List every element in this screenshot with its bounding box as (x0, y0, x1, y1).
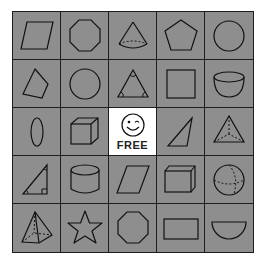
square-icon (159, 62, 203, 106)
cell-circle-2[interactable] (61, 60, 109, 108)
cell-square[interactable] (157, 60, 205, 108)
cell-triangular-pyramid[interactable] (205, 108, 253, 156)
winking-smiley-icon (120, 112, 146, 138)
cell-parallelogram-2[interactable] (109, 156, 157, 204)
cell-square-pyramid[interactable] (13, 204, 61, 252)
semicircle-icon (207, 206, 251, 250)
cell-hemisphere-bowl[interactable] (205, 60, 253, 108)
cell-cylinder[interactable] (61, 156, 109, 204)
cell-right-triangle-thin[interactable] (157, 108, 205, 156)
cell-quadrilateral[interactable] (13, 60, 61, 108)
free-space[interactable]: FREE (109, 108, 157, 156)
cell-star[interactable] (61, 204, 109, 252)
cell-semicircle[interactable] (205, 204, 253, 252)
cell-cone[interactable] (109, 12, 157, 60)
triangle-icon (111, 62, 155, 106)
free-label: FREE (117, 139, 148, 151)
square-pyramid-icon (15, 206, 59, 250)
cell-circle[interactable] (205, 12, 253, 60)
cell-rectangle[interactable] (157, 204, 205, 252)
cell-rectangular-prism[interactable] (157, 156, 205, 204)
cell-triangle-with-angles[interactable] (109, 60, 157, 108)
triangle-icon (159, 110, 203, 154)
cell-cube[interactable] (61, 108, 109, 156)
octagon-icon (63, 14, 107, 58)
cell-oval[interactable] (13, 108, 61, 156)
bingo-board: FREE (12, 11, 254, 253)
triangular-pyramid-icon (207, 110, 251, 154)
pentagon-icon (159, 14, 203, 58)
oval-icon (15, 110, 59, 154)
cone-icon (111, 14, 155, 58)
rectangular-prism-icon (159, 158, 203, 202)
sphere-icon (207, 158, 251, 202)
cell-octagon[interactable] (61, 12, 109, 60)
hemisphere-icon (207, 62, 251, 106)
cell-sphere[interactable] (205, 156, 253, 204)
cell-parallelogram[interactable] (13, 12, 61, 60)
right-triangle-icon (15, 158, 59, 202)
circle-icon (63, 62, 107, 106)
cylinder-icon (63, 158, 107, 202)
parallelogram-icon (15, 14, 59, 58)
cell-right-triangle[interactable] (13, 156, 61, 204)
star-icon (63, 206, 107, 250)
octagon-icon (111, 206, 155, 250)
cell-pentagon[interactable] (157, 12, 205, 60)
circle-icon (207, 14, 251, 58)
cube-icon (63, 110, 107, 154)
rectangle-icon (159, 206, 203, 250)
quadrilateral-icon (15, 62, 59, 106)
parallelogram-icon (111, 158, 155, 202)
cell-octagon-2[interactable] (109, 204, 157, 252)
